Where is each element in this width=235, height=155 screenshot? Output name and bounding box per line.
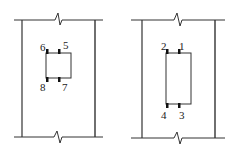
right-tabs	[166, 49, 181, 108]
right-panel	[131, 13, 225, 144]
tab-8	[46, 77, 49, 82]
label-1: 1	[179, 40, 185, 52]
tab-6	[46, 49, 49, 54]
tab-7	[58, 77, 61, 82]
label-5: 5	[63, 39, 69, 51]
label-7: 7	[62, 81, 68, 93]
label-3: 3	[179, 109, 185, 121]
left-opening	[46, 53, 71, 78]
label-2: 2	[161, 40, 167, 52]
left-bottom-break-line	[14, 131, 103, 143]
right-labels: 2 1 4 3	[161, 40, 185, 121]
left-top-break-line	[14, 13, 103, 25]
tab-5	[58, 49, 61, 54]
left-tabs	[46, 49, 61, 82]
diagram-canvas: 6 5 8 7 2 1 4 3	[0, 0, 235, 155]
tab-3	[178, 103, 181, 108]
right-bottom-break-line	[131, 132, 225, 144]
right-opening	[166, 53, 191, 104]
label-4: 4	[161, 109, 167, 121]
tab-4	[166, 103, 169, 108]
right-top-break-line	[131, 13, 225, 26]
left-labels: 6 5 8 7	[40, 39, 69, 93]
label-6: 6	[40, 41, 46, 53]
label-8: 8	[40, 81, 46, 93]
